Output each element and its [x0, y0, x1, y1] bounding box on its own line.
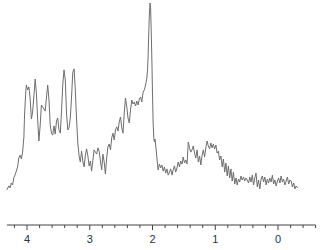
- x-tick-label: 3: [87, 233, 93, 245]
- x-tick-label: 0: [275, 233, 281, 245]
- spectrum-chart: 43210: [0, 0, 320, 250]
- x-axis-ticks: [14, 225, 315, 230]
- x-tick-label: 2: [149, 233, 155, 245]
- trace-layer: [7, 3, 298, 190]
- x-tick-label: 4: [24, 233, 30, 245]
- x-tick-label: 1: [212, 233, 218, 245]
- spectrum-trace: [7, 3, 298, 190]
- x-axis-tick-labels: 43210: [24, 233, 281, 245]
